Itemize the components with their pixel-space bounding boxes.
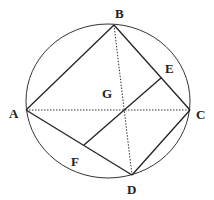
label-e: E (165, 61, 174, 76)
segment-ef (84, 78, 161, 145)
label-b: B (115, 6, 124, 21)
label-c: C (196, 107, 205, 122)
label-f: F (71, 154, 79, 169)
side-ab (26, 25, 114, 110)
side-bc (114, 25, 190, 110)
label-a: A (9, 106, 19, 121)
label-d: D (127, 182, 136, 197)
side-da (26, 110, 132, 175)
side-cd (132, 110, 190, 175)
circumscribed-circle (26, 24, 190, 178)
geometry-diagram: A B C D E F G (0, 0, 214, 200)
diagonal-bd (114, 25, 132, 175)
label-g: G (102, 86, 112, 101)
